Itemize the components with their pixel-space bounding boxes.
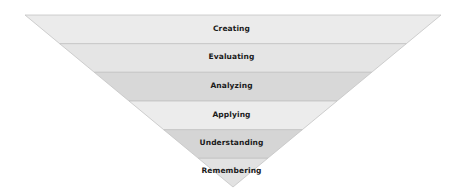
level-label-applying: Applying — [0, 110, 463, 120]
level-label-evaluating: Evaluating — [0, 52, 463, 62]
level-label-creating: Creating — [0, 24, 463, 34]
level-label-understanding: Understanding — [0, 138, 463, 148]
level-label-analyzing: Analyzing — [0, 81, 463, 91]
blooms-taxonomy-inverted-pyramid: Creating Evaluating Analyzing Applying U… — [0, 0, 463, 196]
level-label-remembering: Remembering — [0, 166, 463, 176]
